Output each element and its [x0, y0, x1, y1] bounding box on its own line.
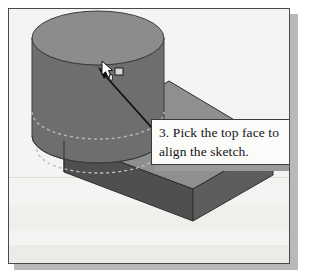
screenshot-root: 3. Pick the top face to align the sketch…: [0, 0, 310, 278]
callout-box: 3. Pick the top face to align the sketch…: [151, 119, 290, 165]
cursor-badge-stem-icon: [110, 75, 113, 80]
mouse-cursor[interactable]: [101, 61, 127, 83]
arrow-pointer-icon: [102, 61, 113, 77]
face-select-square-icon: [115, 68, 123, 75]
callout-line-1: 3. Pick the top face to: [159, 123, 290, 142]
cylinder-top-face: [32, 11, 164, 65]
callout-line-2: align the sketch.: [159, 142, 290, 161]
drawing-frame: 3. Pick the top face to align the sketch…: [8, 8, 290, 264]
